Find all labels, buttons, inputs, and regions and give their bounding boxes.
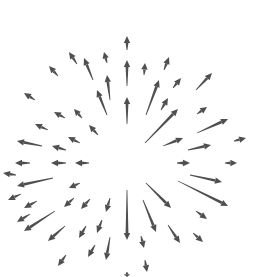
arrow-icon <box>49 66 58 76</box>
arrow-icon <box>24 93 35 100</box>
arrow-icon <box>3 171 16 177</box>
arrow-icon <box>69 52 77 64</box>
arrow-icon <box>178 181 228 206</box>
arrow-icon <box>161 98 168 110</box>
arrow-icon <box>48 226 65 241</box>
arrow-burst-icon <box>0 0 257 277</box>
arrow-icon <box>124 97 130 124</box>
arrow-icon <box>88 245 95 257</box>
arrow-icon <box>97 90 108 115</box>
arrow-icon <box>225 160 237 166</box>
arrow-icon <box>190 175 222 184</box>
arrow-icon <box>17 139 42 146</box>
arrow-icon <box>168 225 180 243</box>
arrow-icon <box>35 124 48 130</box>
arrow-icon <box>143 200 157 232</box>
arrow-icon <box>24 201 37 208</box>
arrow-icon <box>8 194 21 200</box>
arrow-icon <box>234 137 246 143</box>
arrow-icon <box>105 198 111 212</box>
arrow-icon <box>177 160 190 166</box>
arrow-icon <box>139 236 145 248</box>
arrow-icon <box>124 36 130 50</box>
arrow-icon <box>74 109 82 118</box>
arrow-icon <box>104 237 110 260</box>
arrow-icon <box>141 63 147 75</box>
arrow-icon <box>81 199 90 209</box>
arrow-icon <box>51 160 66 166</box>
arrow-icon <box>145 109 178 143</box>
arrow-icon <box>24 211 55 231</box>
arrow-icon <box>196 73 212 90</box>
arrow-icon <box>54 112 65 118</box>
arrow-icon <box>68 137 80 143</box>
arrow-icon <box>89 125 98 135</box>
arrow-icon <box>17 214 30 222</box>
arrow-icon <box>124 272 130 277</box>
arrow-icon <box>196 211 207 219</box>
arrow-icon <box>75 160 89 166</box>
arrow-icon <box>164 57 170 70</box>
arrow-icon <box>64 198 74 207</box>
arrow-icon <box>143 260 149 272</box>
arrow-icon <box>163 138 183 147</box>
arrow-icon <box>124 60 130 86</box>
arrow-icon <box>79 226 86 238</box>
arrow-icon <box>197 107 207 114</box>
arrow-icon <box>146 80 160 115</box>
arrow-icon <box>84 58 94 80</box>
arrow-icon <box>15 160 30 166</box>
arrow-icon <box>17 178 53 188</box>
arrow-icon <box>58 255 66 266</box>
arrow-icon <box>193 233 203 242</box>
arrow-icon <box>146 183 171 208</box>
arrow-icon <box>173 78 181 88</box>
radial-arrow-burst-illustration <box>0 0 257 277</box>
arrow-icon <box>69 182 80 188</box>
arrow-icon <box>105 75 111 100</box>
arrow-icon <box>197 119 228 133</box>
arrow-icon <box>188 143 211 150</box>
arrow-icon <box>52 145 66 151</box>
arrow-icon <box>103 52 109 63</box>
arrow-icon <box>124 190 130 240</box>
arrow-icon <box>97 220 103 233</box>
